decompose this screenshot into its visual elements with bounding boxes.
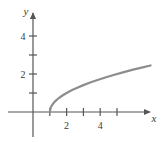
y-axis-label: y (23, 5, 29, 17)
y-tick-label: 4 (21, 31, 26, 42)
function-curve (50, 65, 151, 112)
x-axis-tick-labels: 24 (64, 120, 103, 131)
x-axis-label: x (151, 112, 157, 124)
x-tick-label: 4 (98, 120, 103, 131)
plot-canvas: 24 24 x y (0, 0, 163, 142)
x-tick-label: 2 (64, 120, 69, 131)
y-axis-tick-labels: 24 (21, 31, 26, 80)
y-tick-label: 2 (21, 69, 26, 80)
graph-figure: 24 24 x y (0, 0, 163, 142)
